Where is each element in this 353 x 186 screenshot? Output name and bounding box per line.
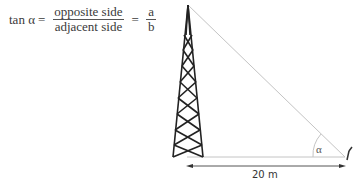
angle-alpha-label: α: [316, 143, 322, 155]
distance-arrow-icon: [186, 164, 346, 168]
tower-icon: [173, 5, 203, 157]
observer-icon: [347, 147, 352, 160]
hypotenuse-line: [188, 5, 345, 157]
triangle-diagram: [0, 0, 353, 186]
distance-label: 20 m: [252, 169, 278, 180]
